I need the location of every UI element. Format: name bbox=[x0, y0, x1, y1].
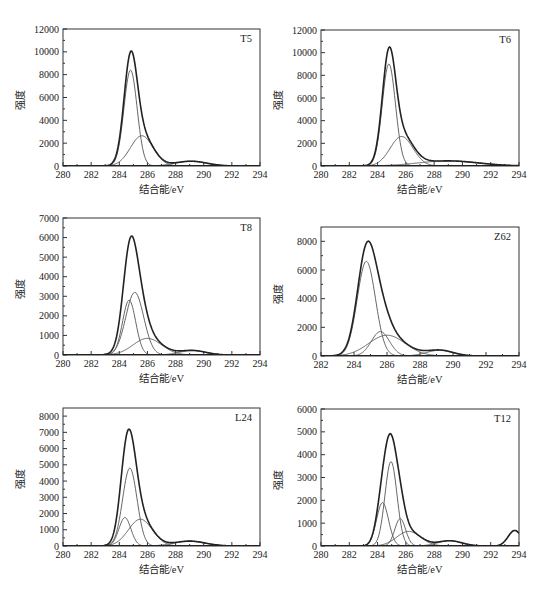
x-tick-label: 290 bbox=[455, 549, 470, 560]
x-tick-label: 294 bbox=[512, 549, 527, 560]
fit-component-curve bbox=[321, 531, 519, 546]
x-axis-label: 结合能/eV bbox=[321, 561, 519, 576]
chart-t12: 2802822842862882902922940100020003000400… bbox=[0, 0, 543, 593]
y-tick-label: 3000 bbox=[297, 472, 317, 483]
x-tick-label: 288 bbox=[427, 549, 442, 560]
y-tick-label: 2000 bbox=[297, 495, 317, 506]
fit-component-curve bbox=[321, 530, 519, 546]
sample-label: T12 bbox=[494, 413, 511, 424]
x-tick-label: 286 bbox=[398, 549, 413, 560]
x-tick-label: 292 bbox=[483, 549, 498, 560]
x-tick-label: 284 bbox=[370, 549, 385, 560]
y-tick-label: 6000 bbox=[297, 404, 317, 415]
y-tick-label: 5000 bbox=[297, 426, 317, 437]
fit-component-curve bbox=[321, 503, 519, 546]
y-tick-label: 4000 bbox=[297, 449, 317, 460]
fit-component-curve bbox=[321, 462, 519, 546]
envelope-curve bbox=[321, 434, 519, 546]
y-tick-label: 0 bbox=[312, 541, 317, 552]
y-tick-label: 1000 bbox=[297, 518, 317, 529]
plot-frame bbox=[321, 409, 519, 546]
y-axis-label: 强度 bbox=[270, 469, 285, 489]
fit-component-curve bbox=[321, 519, 519, 546]
x-tick-label: 282 bbox=[342, 549, 357, 560]
